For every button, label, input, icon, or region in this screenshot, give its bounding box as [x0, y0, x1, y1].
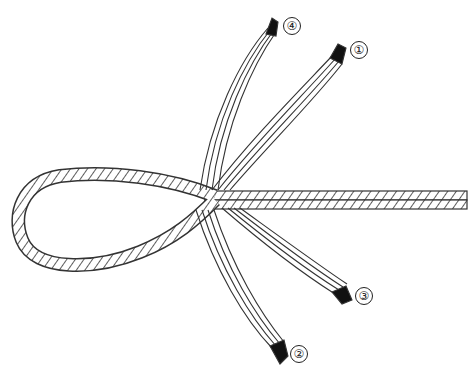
rope-eye-loop [18, 174, 215, 265]
strand-label-4: ④ [283, 17, 301, 35]
rope-standing-part [205, 191, 467, 209]
strand-label-2: ② [290, 345, 308, 363]
rope-splice-diagram [0, 0, 475, 379]
strand-label-1: ① [350, 41, 368, 59]
strand-3 [222, 208, 352, 304]
strand-1 [212, 44, 346, 190]
strand-label-3: ③ [355, 287, 373, 305]
